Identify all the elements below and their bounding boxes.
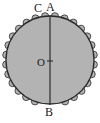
geometry-figure: C A O B bbox=[0, 0, 100, 123]
label-b: B bbox=[45, 106, 53, 118]
label-a: A bbox=[46, 1, 55, 13]
label-c: C bbox=[34, 2, 42, 14]
label-o: O bbox=[37, 56, 45, 68]
